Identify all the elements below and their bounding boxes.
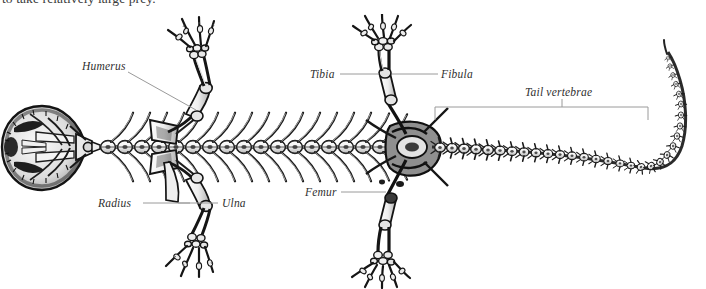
label-radius: Radius	[98, 197, 131, 209]
forelimb-upper-group	[168, 17, 214, 121]
label-humerus: Humerus	[82, 60, 126, 72]
hindlimb-lower-group	[352, 193, 410, 288]
skull-group	[2, 106, 100, 190]
label-ulna: Ulna	[222, 197, 246, 209]
figure-page: to take relatively large prey.	[0, 0, 706, 289]
label-fibula: Fibula	[441, 68, 473, 80]
hindlimb-upper-group	[353, 14, 411, 105]
label-femur: Femur	[305, 186, 337, 198]
label-tibia: Tibia	[310, 68, 335, 80]
tail-group	[431, 40, 687, 176]
label-tail-vertebrae: Tail vertebrae	[525, 86, 592, 98]
clipped-body-text: to take relatively large prey.	[2, 0, 156, 6]
skeleton-illustration	[0, 14, 706, 289]
